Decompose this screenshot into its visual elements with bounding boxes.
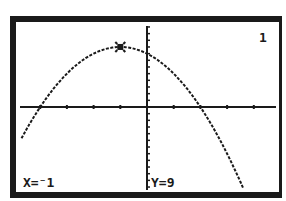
function-curve	[22, 47, 244, 188]
graph-plot	[0, 0, 286, 201]
trace-y-readout: Y=9	[151, 176, 174, 189]
trace-x-readout: X=⁻1	[23, 176, 54, 189]
graph-number: 1	[259, 31, 267, 44]
